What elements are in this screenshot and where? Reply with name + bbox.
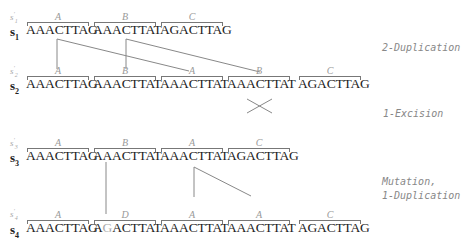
row-4-prime-label: s′4 [10, 208, 18, 221]
segment: BAAACTTAT [93, 12, 157, 36]
segment: BAAACTTAT [93, 66, 157, 90]
row-2-prime-label: s′2 [10, 65, 18, 78]
mutated-base: G [103, 220, 113, 235]
row-3-label: s3 [10, 150, 19, 168]
segment-excised: BAAACTTAT [227, 66, 291, 90]
segment: BAAACTTAT [93, 138, 157, 162]
segment: AAAACTTAT [160, 66, 224, 90]
event-label-duplication: 2-Duplication [382, 41, 460, 55]
segment: CAGACTTAG [298, 210, 362, 234]
segment: AAAACTTAT [160, 138, 224, 162]
segment: CAGACTTAG [298, 66, 362, 90]
event-label-mutation-duplication: Mutation,1-Duplication [382, 175, 460, 203]
row-1-prime-label: s′1 [10, 11, 18, 24]
row-2-label: s2 [10, 78, 19, 96]
segment: CAGACTTAG [227, 138, 291, 162]
segment: AAAACTTAG [26, 12, 90, 36]
event-label-excision: 1-Excision [383, 107, 443, 121]
segment: AAAACTTAG [26, 66, 90, 90]
segment: AAAACTTAG [26, 210, 90, 234]
segment: AAAACTTAT [227, 210, 291, 234]
segment: AAAACTTAT [160, 210, 224, 234]
row-3-prime-label: s′3 [10, 137, 18, 150]
segment: CAGACTTAG [160, 12, 224, 36]
segment-mutated: DAGACTTAT [93, 210, 157, 234]
row-1-label: s1 [10, 24, 19, 42]
row-4-label: s4 [10, 222, 19, 240]
segment: AAAACTTAG [26, 138, 90, 162]
duplication-line-c [194, 167, 251, 197]
